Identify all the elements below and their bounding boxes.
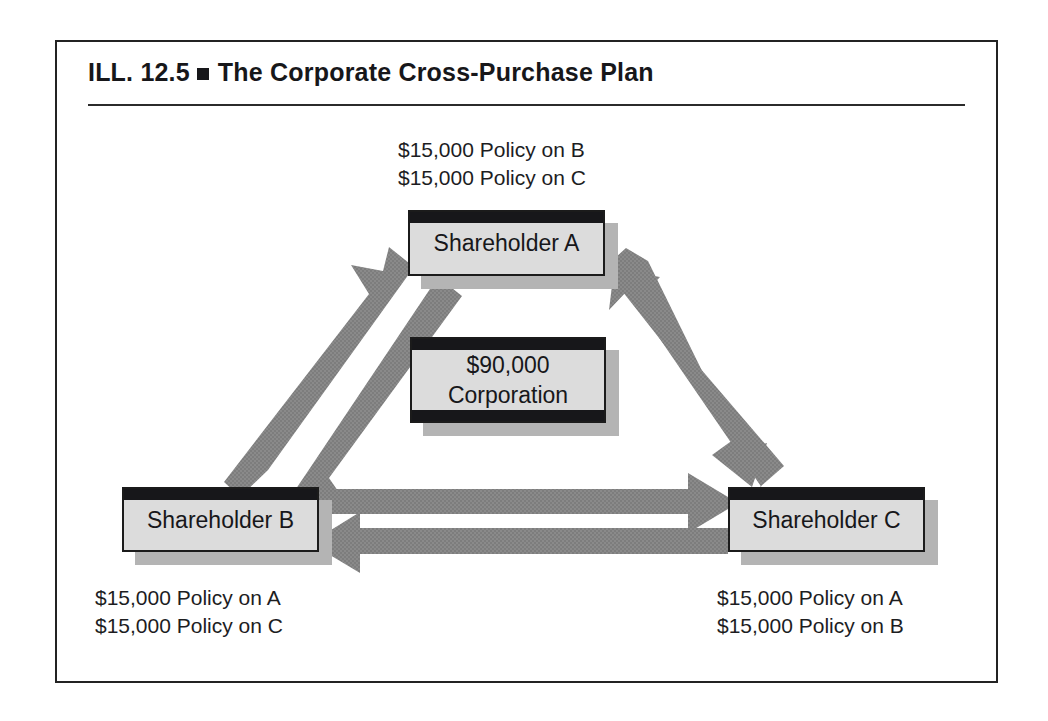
caption-line: $15,000 Policy on B — [717, 612, 904, 640]
corporation-entity: Corporation — [448, 380, 568, 410]
node-shareholder-b[interactable]: Shareholder B — [122, 487, 319, 552]
node-body: Shareholder A — [408, 210, 605, 276]
arrow-a-to-c — [604, 248, 767, 487]
node-shareholder-c[interactable]: Shareholder C — [728, 487, 925, 552]
caption-line: $15,000 Policy on C — [398, 164, 586, 192]
node-shareholder-a[interactable]: Shareholder A — [408, 210, 605, 276]
node-label: Shareholder B — [147, 505, 294, 535]
node-body: $90,000 Corporation — [410, 337, 606, 423]
arrow-b-to-c — [319, 473, 738, 533]
caption-line: $15,000 Policy on C — [95, 612, 283, 640]
node-corporation[interactable]: $90,000 Corporation — [410, 337, 606, 423]
corporation-amount: $90,000 — [466, 350, 549, 380]
node-top-bar — [410, 212, 603, 223]
illustration-page: ILL. 12.5The Corporate Cross-Purchase Pl… — [0, 0, 1048, 721]
arrow-c-to-b — [310, 512, 728, 573]
node-body: Shareholder C — [728, 487, 925, 552]
node-label: Shareholder C — [752, 505, 900, 535]
caption-shareholder-b: $15,000 Policy on A $15,000 Policy on C — [95, 584, 283, 640]
node-body: Shareholder B — [122, 487, 319, 552]
node-top-bar — [124, 489, 317, 500]
caption-shareholder-c: $15,000 Policy on A $15,000 Policy on B — [717, 584, 904, 640]
node-top-bar — [412, 339, 604, 350]
caption-line: $15,000 Policy on B — [398, 136, 586, 164]
caption-shareholder-a: $15,000 Policy on B $15,000 Policy on C — [398, 136, 586, 192]
caption-line: $15,000 Policy on A — [717, 584, 904, 612]
node-label: Shareholder A — [434, 228, 580, 258]
node-top-bar — [730, 489, 923, 500]
node-bottom-bar — [412, 410, 604, 421]
caption-line: $15,000 Policy on A — [95, 584, 283, 612]
